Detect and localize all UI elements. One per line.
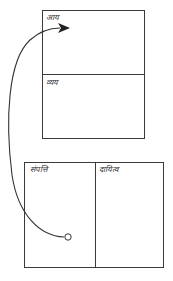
arrow-origin-circle-icon: [65, 234, 71, 240]
transfer-arrow: [0, 0, 173, 281]
arrow-curve: [9, 28, 64, 237]
